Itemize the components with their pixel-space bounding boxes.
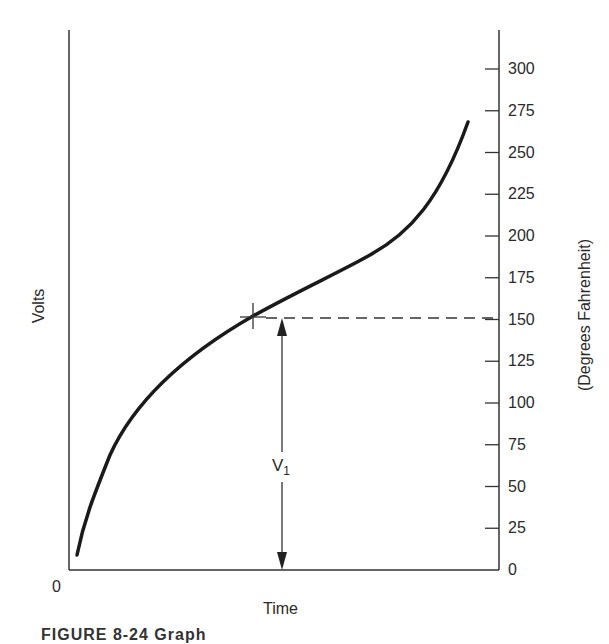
tick-label: 250	[508, 145, 535, 161]
tick-label: 225	[508, 186, 535, 202]
tick-label: 0	[508, 562, 517, 578]
tick-label: 50	[508, 479, 526, 495]
y-axis-label-right: (Degrees Fahrenheit)	[576, 230, 594, 400]
tick-label: 25	[508, 520, 526, 536]
tick-label: 175	[508, 270, 535, 286]
v1-label-main: V	[272, 456, 283, 475]
origin-label: 0	[52, 578, 61, 596]
tick-label: 200	[508, 228, 535, 244]
v1-label-sub: 1	[283, 464, 290, 478]
crosshair-marker	[240, 303, 266, 329]
right-axis-ticks	[485, 69, 499, 528]
temperature-curve	[77, 122, 468, 555]
tick-label: 100	[508, 395, 535, 411]
v1-label: V1	[272, 456, 290, 478]
tick-label: 300	[508, 61, 535, 77]
tick-label: 150	[508, 312, 535, 328]
tick-label: 125	[508, 353, 535, 369]
v1-dimension-arrow	[277, 318, 287, 570]
x-axis-label-time: Time	[263, 600, 298, 618]
tick-label: 275	[508, 103, 535, 119]
tick-label: 75	[508, 437, 526, 453]
figure-caption: FIGURE 8-24 Graph	[41, 626, 206, 644]
y-axis-label-volts: Volts	[30, 286, 48, 326]
